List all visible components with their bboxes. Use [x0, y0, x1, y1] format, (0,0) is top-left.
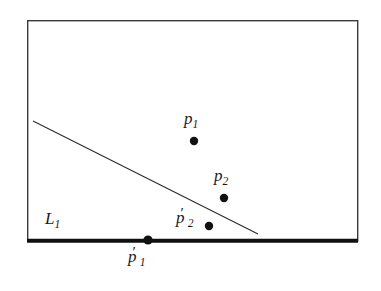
bounding-rectangle: [28, 21, 358, 241]
point-dot-p2-prime: [205, 222, 213, 230]
figure-canvas: [0, 0, 381, 291]
point-dot-p1: [190, 137, 198, 145]
point-label-p2-prime-subscript: 2: [188, 217, 194, 229]
point-dot-p2: [220, 194, 228, 202]
point-label-p1-subscript: 1: [193, 118, 199, 130]
point-dot-p1-prime: [143, 235, 152, 244]
point-label-p1-prime-subscript: 1: [140, 256, 146, 268]
point-label-p2: p2: [214, 167, 228, 184]
point-label-p2-base: p: [214, 166, 223, 185]
point-label-p1-prime: p′1: [128, 248, 146, 265]
point-label-p2-prime: p′2: [176, 209, 194, 226]
prime-mark-icon: ′: [133, 244, 136, 260]
point-label-p1-base: p: [184, 109, 193, 128]
line-label-L1: L1: [45, 210, 60, 227]
geometry-figure: p1 p2 p′2 p′1 L1: [0, 0, 381, 291]
point-label-p1: p1: [184, 110, 198, 127]
prime-mark-icon: ′: [181, 205, 184, 221]
point-label-p2-subscript: 2: [223, 175, 229, 187]
line-label-L1-subscript: 1: [54, 218, 60, 230]
